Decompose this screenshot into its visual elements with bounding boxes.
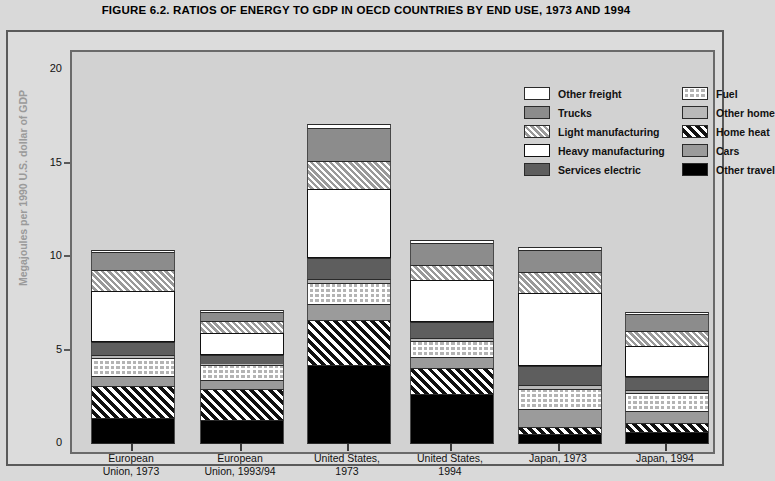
legend-item-other-freight[interactable]: Other freight [524,84,665,103]
bar-segment-services_electric[interactable] [91,342,175,355]
figure-panel: Megajoules per 1990 U.S. dollar of GDP 0… [6,30,724,466]
legend-swatch-services-electric-icon [524,163,550,176]
bar-3[interactable] [307,124,391,444]
legend-item-services-electric[interactable]: Services electric [524,160,665,179]
bar-segment-other_freight[interactable] [410,240,494,243]
bar-segment-home_heat[interactable] [518,427,602,434]
bar-6[interactable] [625,312,709,444]
legend-swatch-other-travel-icon [682,163,708,176]
bar-segment-cars[interactable] [307,304,391,320]
bar-5[interactable] [518,247,602,444]
bar-segment-light_manufacturing[interactable] [200,321,284,333]
bar-segment-services_electric[interactable] [410,322,494,339]
bar-segment-home_heat[interactable] [200,389,284,420]
bar-segment-other_travel[interactable] [200,420,284,444]
bar-segment-light_manufacturing[interactable] [410,265,494,280]
bar-segment-other_travel[interactable] [307,365,391,444]
bar-segment-services_electric[interactable] [625,377,709,390]
bar-segment-heavy_manufacturing[interactable] [200,333,284,355]
x-axis-label-line: Union, 1973 [71,465,191,478]
legend-label: Other travel [716,164,775,176]
bar-segment-heavy_manufacturing[interactable] [518,293,602,367]
bar-segment-other_freight[interactable] [625,312,709,314]
bar-segment-trucks[interactable] [307,128,391,161]
x-axis-label-4: United States,1994 [390,452,510,478]
bar-segment-home_heat[interactable] [625,423,709,431]
legend-item-other-travel[interactable]: Other travel [682,160,775,179]
bar-segment-services_electric[interactable] [200,355,284,363]
bar-segment-fuel[interactable] [91,358,175,376]
bar-segment-services_electric[interactable] [307,258,391,280]
bar-segment-light_manufacturing[interactable] [307,161,391,189]
x-tick-mark-1 [131,444,133,451]
x-tick-mark-2 [240,444,242,451]
bar-segment-other_home[interactable] [518,385,602,389]
bar-segment-heavy_manufacturing[interactable] [91,291,175,342]
x-axis-label-line: United States, [390,452,510,465]
bar-segment-heavy_manufacturing[interactable] [410,280,494,321]
legend-item-fuel[interactable]: Fuel [682,84,775,103]
legend-swatch-cars-icon [682,144,708,157]
bar-segment-other_travel[interactable] [410,394,494,444]
x-tick-mark-3 [347,444,349,451]
legend-swatch-home-heat-icon [682,125,708,138]
x-axis-label-3: United States,1973 [287,452,407,478]
bar-segment-other_freight[interactable] [91,250,175,253]
bar-2[interactable] [200,311,284,444]
bar-segment-cars[interactable] [625,411,709,423]
bar-segment-home_heat[interactable] [307,320,391,366]
bar-segment-other_home[interactable] [200,363,284,365]
bar-segment-fuel[interactable] [200,365,284,380]
bar-segment-cars[interactable] [91,376,175,386]
bar-segment-other_travel[interactable] [518,434,602,444]
bar-segment-trucks[interactable] [410,243,494,265]
bar-segment-other_freight[interactable] [518,247,602,250]
y-tick-label-20: 20 [36,62,62,74]
bar-segment-fuel[interactable] [518,389,602,410]
x-axis-label-line: 1973 [287,465,407,478]
bar-segment-home_heat[interactable] [91,386,175,418]
bar-segment-other_freight[interactable] [307,124,391,128]
bar-segment-fuel[interactable] [307,283,391,304]
bar-segment-services_electric[interactable] [518,366,602,385]
legend-item-heavy-manufacturing[interactable]: Heavy manufacturing [524,141,665,160]
legend-label: Heavy manufacturing [558,145,665,157]
bar-segment-fuel[interactable] [625,393,709,412]
bar-segment-light_manufacturing[interactable] [518,272,602,293]
bar-segment-other_travel[interactable] [625,432,709,444]
bar-segment-trucks[interactable] [625,314,709,331]
legend-swatch-fuel-icon [682,87,708,100]
bar-segment-other_home[interactable] [625,390,709,393]
bar-segment-light_manufacturing[interactable] [91,270,175,291]
bar-segment-other_home[interactable] [307,279,391,283]
bar-segment-other_travel[interactable] [91,418,175,444]
legend-item-home-heat[interactable]: Home heat [682,122,775,141]
x-axis-label-line: European [71,452,191,465]
legend-item-other-home[interactable]: Other home [682,103,775,122]
bar-1[interactable] [91,250,175,444]
x-axis-label-6: Japan, 1994 [605,452,725,465]
bar-segment-trucks[interactable] [200,312,284,320]
bar-segment-cars[interactable] [518,409,602,427]
bar-segment-heavy_manufacturing[interactable] [307,189,391,258]
legend-item-light-manufacturing[interactable]: Light manufacturing [524,122,665,141]
bar-segment-other_home[interactable] [91,355,175,358]
legend-item-trucks[interactable]: Trucks [524,103,665,122]
legend-label: Services electric [558,164,641,176]
bar-segment-trucks[interactable] [91,252,175,270]
bar-segment-home_heat[interactable] [410,368,494,393]
legend-item-cars[interactable]: Cars [682,141,775,160]
bar-segment-trucks[interactable] [518,250,602,272]
bar-segment-heavy_manufacturing[interactable] [625,346,709,377]
x-tick-mark-4 [450,444,452,451]
x-axis-label-line: United States, [287,452,407,465]
bar-segment-fuel[interactable] [410,341,494,357]
bar-segment-other_home[interactable] [410,338,494,341]
y-axis-title: Megajoules per 1990 U.S. dollar of GDP [17,23,29,353]
bar-segment-light_manufacturing[interactable] [625,331,709,346]
bar-segment-other_freight[interactable] [200,310,284,312]
bar-segment-cars[interactable] [410,357,494,368]
bar-segment-cars[interactable] [200,380,284,388]
x-axis-label-line: 1994 [390,465,510,478]
bar-4[interactable] [410,240,494,444]
